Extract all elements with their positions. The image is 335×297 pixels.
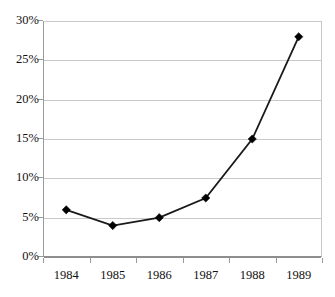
gridline <box>44 178 321 179</box>
gridline <box>44 100 321 101</box>
y-axis-label: 30% <box>0 14 39 27</box>
gridline <box>44 60 321 61</box>
y-axis-label: 20% <box>0 93 39 106</box>
x-axis-tick <box>90 258 91 263</box>
x-axis-tick <box>229 258 230 263</box>
y-axis-label: 25% <box>0 53 39 66</box>
y-axis-label: 0% <box>0 250 39 263</box>
x-axis-tick <box>43 258 44 263</box>
x-axis-tick <box>276 258 277 263</box>
x-axis-tick <box>183 258 184 263</box>
x-axis-label: 1989 <box>269 269 329 282</box>
gridline <box>44 139 321 140</box>
y-axis-label: 15% <box>0 132 39 145</box>
y-axis-label: 5% <box>0 211 39 224</box>
gridline <box>44 21 321 22</box>
x-axis-tick <box>322 258 323 263</box>
y-axis-label: 10% <box>0 171 39 184</box>
gridline <box>44 218 321 219</box>
x-axis-tick <box>136 258 137 263</box>
plot-area <box>43 21 322 257</box>
line-chart: 0%5%10%15%20%25%30% 19841985198619871988… <box>0 0 335 297</box>
